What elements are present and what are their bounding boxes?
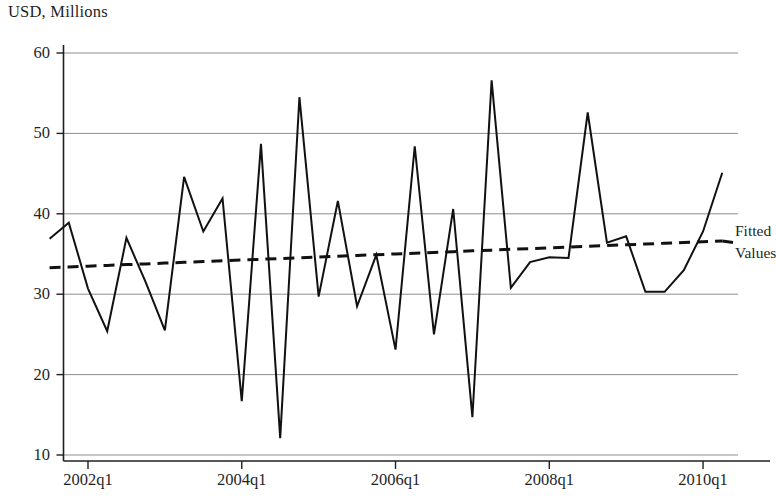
x-tick-label: 2002q1 [63,470,113,490]
legend-label-fitted: Fitted [735,222,771,240]
y-tick-label: 30 [6,284,50,304]
x-tick-label: 2004q1 [217,470,267,490]
fitted-values-line [50,241,723,268]
x-tick-label: 2008q1 [525,470,575,490]
y-tick-label: 20 [6,365,50,385]
plot-area [0,0,776,502]
y-axis-title: USD, Millions [8,2,108,22]
y-tick-label: 60 [6,43,50,63]
y-tick-label: 10 [6,445,50,465]
chart-figure: USD, Millions 102030405060 2002q12004q12… [0,0,776,502]
actual-series-line [50,80,723,438]
x-tick-label: 2006q1 [371,470,421,490]
x-tick-label: 2010q1 [678,470,728,490]
legend-label-values: Values [735,244,776,262]
y-tick-label: 50 [6,123,50,143]
legend-connector-dash [722,241,733,243]
x-axis-ticks [88,461,703,469]
y-tick-label: 40 [6,204,50,224]
